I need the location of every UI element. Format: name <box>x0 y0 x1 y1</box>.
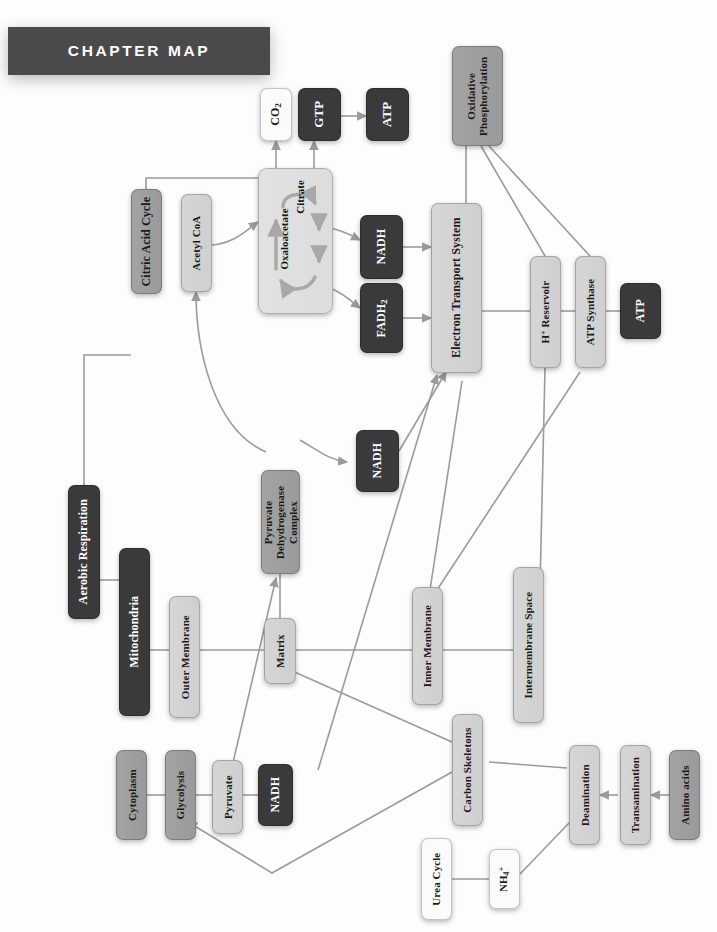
node-inner-membrane[interactable]: Inner Membrane <box>412 587 443 705</box>
edge-nadhpdc-ets <box>399 372 446 451</box>
node-atp-synthase[interactable]: ATP Synthase <box>575 256 606 368</box>
node-carbon-skeletons[interactable]: Carbon Skeletons <box>452 714 483 826</box>
node-nadh-citric-acid-cycle[interactable]: NADH <box>360 215 403 279</box>
node-label: NADH <box>269 777 282 813</box>
node-glycolysis[interactable]: Glycolysis <box>165 750 196 840</box>
node-h-reservoir[interactable]: H+ Reservoir <box>530 256 561 368</box>
node-nadh-pdc[interactable]: NADH <box>356 430 399 492</box>
edge-deamination-carbon <box>489 762 567 768</box>
node-label: Citric Acid Cycle <box>140 197 153 287</box>
node-label: Oxidative Phosphorylation <box>465 56 490 135</box>
node-label: NADH <box>371 443 384 479</box>
edge-aerobic-citric <box>84 355 131 485</box>
node-matrix[interactable]: Matrix <box>264 618 296 684</box>
node-pyruvate[interactable]: Pyruvate <box>212 760 243 834</box>
edge-cyclebox-nadh <box>330 228 360 240</box>
node-gtp[interactable]: GTP <box>298 88 341 141</box>
node-label: Pyruvate <box>221 775 233 819</box>
node-label: Acetyl CoA <box>190 215 202 270</box>
edge-oxphos-atpsynthase <box>489 146 590 256</box>
node-mitochondria[interactable]: Mitochondria <box>119 548 150 716</box>
node-label: ATP <box>634 299 647 322</box>
node-electron-transport-system[interactable]: Electron Transport System <box>431 203 482 373</box>
node-label: Aerobic Respiration <box>77 499 90 604</box>
edge-deamination-nh4 <box>520 822 570 874</box>
cycle-label-citrate: Citrate <box>294 180 306 214</box>
node-label: Deamination <box>578 764 590 826</box>
node-nadh-glycolysis[interactable]: NADH <box>258 764 293 826</box>
node-label: GTP <box>312 101 327 128</box>
chapter-map-page: CHAPTER MAP <box>0 0 717 932</box>
node-label: H+ Reservoir <box>539 281 551 344</box>
node-label: Amino acids <box>678 765 690 824</box>
node-label: Glycolysis <box>174 771 186 820</box>
node-label: ATP Synthase <box>584 279 596 346</box>
edge-interspace-hres <box>540 368 545 588</box>
node-label: Pyruvate Dehydrogenase Complex <box>262 485 299 558</box>
node-oxidative-phosphorylation[interactable]: Oxidative Phosphorylation <box>452 46 503 146</box>
node-deamination[interactable]: Deamination <box>569 745 600 845</box>
node-label: NADH <box>375 229 388 265</box>
node-label: Mitochondria <box>128 596 141 668</box>
node-label: Matrix <box>274 634 286 668</box>
node-label: Transamination <box>629 757 641 833</box>
node-label: Intermembrane Space <box>522 592 534 699</box>
edge-cyclebox-fadh2 <box>330 288 360 308</box>
node-citric-acid-cycle[interactable]: Citric Acid Cycle <box>131 189 162 294</box>
node-outer-membrane[interactable]: Outer Membrane <box>169 596 200 718</box>
edge-oxphos-hres <box>481 146 545 256</box>
concept-map-diagram: Aerobic Respiration Mitochondria Outer M… <box>0 0 717 932</box>
edge-acetylcoa-cyclebox <box>212 222 258 245</box>
node-label: NH4+ <box>497 866 512 891</box>
node-pyruvate-dehydrogenase-complex[interactable]: Pyruvate Dehydrogenase Complex <box>261 470 300 574</box>
node-co2[interactable]: CO2 <box>260 88 292 141</box>
node-atp-from-synthase[interactable]: ATP <box>620 283 661 339</box>
node-label: Inner Membrane <box>421 605 433 687</box>
node-label: Carbon Skeletons <box>461 727 473 812</box>
node-citric-acid-cycle-wheel[interactable]: Oxaloacetate Citrate <box>258 168 333 314</box>
node-amino-acids[interactable]: Amino acids <box>669 750 700 840</box>
node-acetyl-coa[interactable]: Acetyl CoA <box>181 194 212 292</box>
edge-cac-cyclebox <box>146 178 263 189</box>
node-label: FADH2 <box>374 299 389 337</box>
node-label: Urea Cycle <box>430 852 442 905</box>
node-label: ATP <box>380 102 395 127</box>
node-nh4[interactable]: NH4+ <box>489 849 520 909</box>
node-aerobic-respiration[interactable]: Aerobic Respiration <box>68 485 100 619</box>
edge-pdc-acetylcoa <box>196 292 266 452</box>
node-label: Electron Transport System <box>450 218 463 359</box>
node-label: CO2 <box>269 103 284 126</box>
node-label: Outer Membrane <box>178 615 190 699</box>
edge-pdc-nadh <box>300 440 347 462</box>
node-urea-cycle[interactable]: Urea Cycle <box>421 838 452 920</box>
node-atp-from-gtp[interactable]: ATP <box>366 88 409 141</box>
node-fadh2[interactable]: FADH2 <box>360 283 403 353</box>
cycle-label-oxaloacetate: Oxaloacetate <box>278 208 290 269</box>
node-cytoplasm[interactable]: Cytoplasm <box>116 750 147 840</box>
node-transamination[interactable]: Transamination <box>620 745 651 845</box>
node-label: Cytoplasm <box>125 769 137 821</box>
node-intermembrane-space[interactable]: Intermembrane Space <box>513 567 544 723</box>
